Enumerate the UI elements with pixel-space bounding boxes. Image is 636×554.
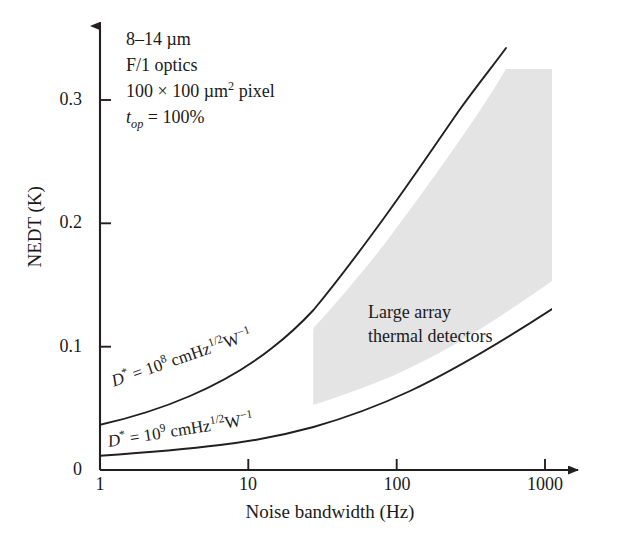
- t-subscript-op: op: [131, 117, 143, 131]
- x-tick-label-100: 100: [362, 473, 432, 496]
- annotation-line-optics: F/1 optics: [126, 52, 275, 78]
- dstar-9-watt-exponent: −1: [239, 408, 253, 423]
- y-axis-title: NEDT (K): [23, 147, 47, 307]
- annotation-line-spectral-band: 8–14 µm: [126, 26, 275, 52]
- nedt-vs-noise-bandwidth-chart: 8–14 µm F/1 optics 100 × 100 µm2 pixel t…: [0, 0, 636, 554]
- region-label-line1: Large array: [368, 300, 492, 324]
- x-tick-label-10: 10: [213, 473, 283, 496]
- y-tick-label-0.1: 0.1: [36, 335, 82, 358]
- annotation-line-optical-transmission: top = 100%: [126, 104, 275, 130]
- shaded-region-label: Large array thermal detectors: [368, 300, 492, 349]
- x-tick-label-1: 1: [65, 473, 135, 496]
- conditions-annotation: 8–14 µm F/1 optics 100 × 100 µm2 pixel t…: [126, 26, 275, 130]
- annotation-line-pixel-size: 100 × 100 µm2 pixel: [126, 78, 275, 104]
- x-axis-title: Noise bandwidth (Hz): [180, 500, 480, 524]
- x-tick-label-1000: 1000: [510, 473, 580, 496]
- dstar-9-equals: = 10: [124, 424, 162, 448]
- plot-canvas: [0, 0, 636, 554]
- pixel-size-text: 100 × 100 µm: [126, 81, 228, 101]
- y-tick-label-0.3: 0.3: [36, 88, 82, 111]
- region-label-line2: thermal detectors: [368, 324, 492, 348]
- y-axis-ticks: [100, 100, 111, 347]
- t-value: = 100%: [143, 107, 204, 127]
- pixel-size-suffix: pixel: [234, 81, 275, 101]
